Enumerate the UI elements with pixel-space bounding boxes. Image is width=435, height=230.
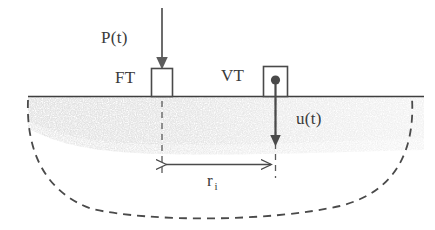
radius-label: r	[207, 171, 213, 190]
displacement-label: u(t)	[296, 109, 322, 128]
soil-dynamics-diagram: P(t) FT VT u(t) r i	[0, 0, 435, 230]
soil-stipple-band	[28, 97, 424, 155]
force-transducer-box	[152, 69, 173, 97]
force-transducer-label: FT	[115, 68, 136, 87]
velocity-transducer-label: VT	[221, 66, 245, 85]
diagram-canvas: P(t) FT VT u(t) r i	[0, 0, 435, 230]
radius-subscript-label: i	[214, 180, 217, 192]
load-label: P(t)	[101, 28, 128, 47]
